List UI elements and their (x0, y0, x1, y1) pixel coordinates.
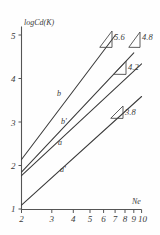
y-tick-label-3: 3 (10, 118, 16, 128)
data-line-b (22, 36, 116, 160)
slope-label-38: 3.8 (124, 107, 136, 117)
x-axis-title: Ne (131, 197, 141, 206)
plot-area: 5 4 3 2 1 logCd(K) 2 3 4 5 6 7 8 9 10 Ne (0, 0, 160, 235)
slope-triangle-38: 3.8 (111, 106, 136, 118)
curve-label-b: b (57, 89, 61, 98)
slope-label-56: 5.6 (114, 32, 125, 42)
x-tick-label-6: 6 (101, 214, 106, 224)
y-axis-title: logCd(K) (24, 18, 55, 27)
x-tick-label-5: 5 (88, 214, 93, 224)
x-tick-label-8: 8 (123, 214, 128, 224)
x-tick-label-7: 7 (113, 214, 118, 224)
data-line-a-prime (22, 97, 142, 206)
x-tick-label-9: 9 (132, 214, 137, 224)
slope-triangle-48: 4.8 (129, 32, 153, 47)
y-tick-label-2: 2 (11, 161, 16, 171)
x-tick-label-4: 4 (71, 214, 76, 224)
y-tick-label-1: 1 (11, 204, 16, 214)
curve-label-b-prime: b' (61, 117, 67, 126)
chart-figure: 5 4 3 2 1 logCd(K) 2 3 4 5 6 7 8 9 10 Ne (0, 0, 160, 235)
y-tick-label-5: 5 (11, 31, 16, 41)
x-tick-label-10: 10 (138, 214, 148, 224)
y-tick-label-4: 4 (11, 74, 16, 84)
slope-triangle-42: 4.2 (114, 61, 139, 74)
curve-label-a-prime: a' (60, 165, 66, 174)
slope-label-48: 4.8 (142, 32, 153, 42)
x-tick-label-3: 3 (49, 214, 55, 224)
slope-label-42: 4.2 (128, 62, 139, 72)
x-tick-label-2: 2 (19, 214, 24, 224)
curve-label-a: a (58, 138, 62, 147)
